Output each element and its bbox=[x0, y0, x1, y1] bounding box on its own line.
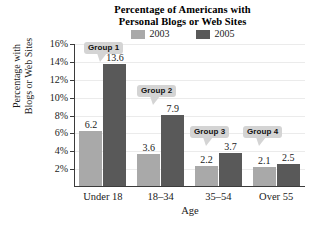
y-tick-label: 10% bbox=[50, 93, 68, 103]
legend-item-2005: 2005 bbox=[196, 29, 235, 39]
legend-label-2005: 2005 bbox=[215, 29, 235, 39]
bar-value-label: 13.6 bbox=[106, 53, 124, 63]
y-axis-title: Percentage with Blogs or Web Sites bbox=[11, 11, 43, 141]
bar-2005-2 bbox=[161, 115, 184, 186]
callout-tail-4 bbox=[256, 137, 266, 146]
y-axis-title-line-2: Blogs or Web Sites bbox=[23, 11, 35, 141]
category-label-2: 18–34 bbox=[148, 191, 174, 202]
y-tick-label: 6% bbox=[55, 128, 68, 138]
bar-2005-1 bbox=[103, 64, 126, 186]
bar-2005-4 bbox=[277, 164, 300, 186]
y-tick-label: 4% bbox=[55, 146, 68, 156]
bar-chart: Percentage of Americans with Personal Bl… bbox=[0, 0, 321, 226]
bar-2003-1 bbox=[79, 131, 102, 186]
callout-tail-3 bbox=[203, 137, 213, 146]
y-tick-label: 2% bbox=[55, 164, 68, 174]
y-axis-title-line-1: Percentage with bbox=[11, 11, 23, 141]
bar-2005-3 bbox=[219, 153, 242, 186]
x-axis-title: Age bbox=[70, 205, 310, 216]
y-tick-label: 16% bbox=[50, 39, 68, 49]
bar-2003-3 bbox=[195, 166, 218, 186]
bar-2003-2 bbox=[137, 154, 160, 186]
bar-value-label: 3.6 bbox=[142, 143, 155, 153]
bar-value-label: 7.9 bbox=[166, 104, 179, 114]
plot-area: 6.213.63.67.92.23.72.12.5 2%4%6%8%10%12%… bbox=[74, 44, 305, 187]
y-tick-label: 8% bbox=[55, 111, 68, 121]
y-axis-line bbox=[74, 44, 75, 187]
category-label-4: Over 55 bbox=[259, 191, 293, 202]
chart-title-line-1: Percentage of Americans with bbox=[60, 4, 305, 16]
y-tick-label: 12% bbox=[50, 75, 68, 85]
legend-label-2003: 2003 bbox=[150, 29, 170, 39]
chart-title-line-2: Personal Blogs or Web Sites bbox=[60, 16, 305, 28]
category-label-3: 35–54 bbox=[205, 191, 231, 202]
chart-legend: 2003 2005 bbox=[60, 29, 305, 39]
y-tick-label: 14% bbox=[50, 57, 68, 67]
category-label-1: Under 18 bbox=[83, 191, 122, 202]
bar-value-label: 3.7 bbox=[224, 142, 237, 152]
x-axis-line bbox=[74, 186, 305, 187]
legend-swatch-2003 bbox=[131, 30, 145, 39]
callout-tail-1 bbox=[97, 53, 107, 62]
callout-tail-2 bbox=[150, 96, 160, 105]
bar-value-label: 2.5 bbox=[282, 153, 295, 163]
chart-title: Percentage of Americans with Personal Bl… bbox=[60, 4, 305, 28]
bar-value-label: 2.1 bbox=[258, 156, 271, 166]
bar-value-label: 2.2 bbox=[200, 155, 213, 165]
legend-item-2003: 2003 bbox=[131, 29, 170, 39]
bar-2003-4 bbox=[253, 167, 276, 186]
legend-swatch-2005 bbox=[196, 30, 210, 39]
bar-value-label: 6.2 bbox=[85, 120, 98, 130]
